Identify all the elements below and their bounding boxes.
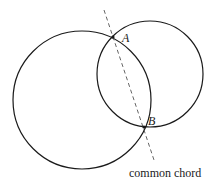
left-circle bbox=[13, 31, 151, 169]
point-b bbox=[142, 125, 145, 128]
point-b-label: B bbox=[148, 114, 156, 128]
point-a-label: A bbox=[121, 31, 130, 45]
diagram-canvas: A B common chord bbox=[0, 0, 216, 185]
point-a bbox=[111, 35, 114, 38]
common-chord-caption: common chord bbox=[129, 166, 201, 180]
